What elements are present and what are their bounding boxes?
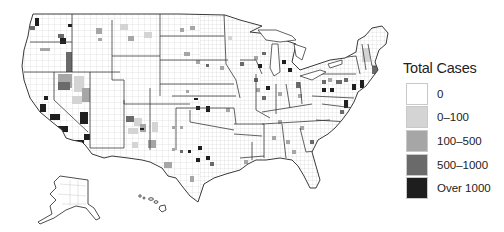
legend: Total Cases 0 0–100 100–500 500–1000 Ove… [403, 60, 503, 200]
legend-item-500-1000: 500–1000 [406, 153, 503, 177]
legend-swatch [406, 177, 428, 199]
legend-label: 0 [437, 88, 443, 100]
legend-label: 100–500 [437, 135, 482, 147]
legend-items: 0 0–100 100–500 500–1000 Over 1000 [406, 82, 503, 200]
hawaii [139, 195, 166, 212]
legend-swatch [406, 130, 428, 152]
legend-label: 500–1000 [437, 159, 488, 171]
legend-item-100-500: 100–500 [406, 129, 503, 153]
legend-item-zero: 0 [406, 82, 503, 106]
legend-label: Over 1000 [437, 182, 491, 194]
legend-item-0-100: 0–100 [406, 106, 503, 130]
alaska [38, 176, 100, 224]
legend-swatch [406, 154, 428, 176]
legend-item-over-1000: Over 1000 [406, 176, 503, 200]
legend-swatch [406, 83, 428, 105]
legend-swatch [406, 106, 428, 128]
legend-title: Total Cases [403, 60, 503, 76]
legend-label: 0–100 [437, 111, 469, 123]
